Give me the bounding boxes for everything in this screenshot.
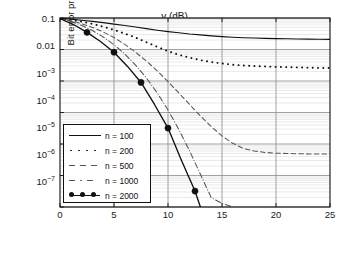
chart-legend[interactable]: n = 100 n = 200 n = 500 bbox=[63, 124, 151, 203]
chart-figure: Bit error probability γ (dB) 0.1 0.01 10… bbox=[0, 0, 349, 256]
y-axis-label: Bit error probability bbox=[65, 0, 76, 76]
legend-item-n2000[interactable]: n = 2000 bbox=[64, 188, 152, 203]
legend-item-n100[interactable]: n = 100 bbox=[64, 128, 152, 143]
legend-swatch-marker-line bbox=[67, 189, 103, 203]
legend-label-n2000: n = 2000 bbox=[105, 191, 138, 201]
data-marker bbox=[84, 29, 90, 35]
y-tick-label-2: 10−3 bbox=[21, 67, 55, 79]
legend-label-n500: n = 500 bbox=[105, 161, 134, 171]
x-tick-label-3: 15 bbox=[207, 209, 237, 220]
x-tick-label-2: 10 bbox=[153, 209, 183, 220]
x-tick-label-0: 0 bbox=[45, 209, 75, 220]
legend-label-n1000: n = 1000 bbox=[105, 176, 138, 186]
legend-swatch-dashed bbox=[67, 159, 103, 173]
legend-item-n500[interactable]: n = 500 bbox=[64, 158, 152, 173]
x-tick-label-4: 20 bbox=[261, 209, 291, 220]
legend-label-n200: n = 200 bbox=[105, 146, 134, 156]
x-tick-label-1: 5 bbox=[99, 209, 129, 220]
y-tick-label-3: 10−4 bbox=[21, 94, 55, 106]
legend-swatch-solid bbox=[67, 129, 103, 143]
x-tick-label-5: 25 bbox=[315, 209, 345, 220]
data-marker bbox=[192, 188, 198, 194]
data-marker bbox=[138, 79, 144, 85]
legend-label-n100: n = 100 bbox=[105, 131, 134, 141]
y-tick-label-5: 10−6 bbox=[21, 148, 55, 160]
y-tick-label-4: 10−5 bbox=[21, 121, 55, 133]
y-tick-label-0: 0.1 bbox=[21, 13, 55, 24]
data-marker bbox=[165, 125, 171, 131]
legend-swatch-dotted bbox=[67, 144, 103, 158]
legend-item-n1000[interactable]: n = 1000 bbox=[64, 173, 152, 188]
legend-item-n200[interactable]: n = 200 bbox=[64, 143, 152, 158]
legend-swatch-dashdot bbox=[67, 174, 103, 188]
data-marker bbox=[111, 49, 117, 55]
y-tick-label-6: 10−7 bbox=[21, 175, 55, 187]
y-tick-label-1: 0.01 bbox=[21, 40, 55, 51]
